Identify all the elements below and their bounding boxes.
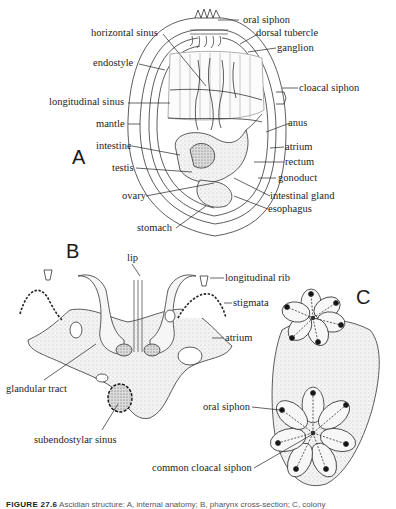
- panel-letter-b: B: [66, 240, 79, 263]
- label-oral-siphon: oral siphon: [243, 14, 290, 26]
- label-subendostylar-sinus: subendostylar sinus: [34, 434, 117, 446]
- label-horizontal-sinus: horizontal sinus: [91, 27, 158, 39]
- label-oral-siphon-c: oral siphon: [203, 401, 250, 413]
- figure-caption: FIGURE 27.6 Ascidian structure: A, inter…: [6, 500, 325, 509]
- label-dorsal-tubercle: dorsal tubercle: [256, 27, 318, 39]
- label-anus: anus: [288, 117, 307, 129]
- label-longitudinal-rib: longitudinal rib: [225, 272, 290, 284]
- panel-letter-a: A: [72, 146, 85, 169]
- label-cloacal-siphon: cloacal siphon: [299, 82, 359, 94]
- label-esophagus: esophagus: [268, 203, 312, 215]
- panel-letter-c: C: [356, 286, 370, 309]
- caption-text: Ascidian structure: A, internal anatomy;…: [59, 500, 325, 509]
- label-ovary: ovary: [122, 190, 146, 202]
- label-stigmata: stigmata: [233, 297, 269, 309]
- panel-a-drawing: [128, 9, 286, 236]
- label-longitudinal-sinus: longitudinal sinus: [49, 96, 124, 108]
- label-glandular-tract: glandular tract: [6, 383, 67, 395]
- label-ganglion: ganglion: [277, 42, 314, 54]
- panel-c-drawing: [268, 289, 380, 486]
- panel-b-drawing: [20, 270, 232, 419]
- label-mantle: mantle: [96, 118, 125, 130]
- label-intestinal-gland: intestinal gland: [270, 190, 334, 202]
- caption-number: FIGURE 27.6: [6, 500, 57, 509]
- label-intestine: intestine: [96, 140, 132, 152]
- label-endostyle: endostyle: [93, 57, 133, 69]
- label-atrium-a: atrium: [285, 141, 312, 153]
- label-gonoduct: gonoduct: [278, 172, 317, 184]
- label-atrium-b: atrium: [225, 332, 252, 344]
- label-stomach: stomach: [137, 222, 172, 234]
- label-testis: testis: [112, 162, 134, 174]
- label-lip: lip: [127, 252, 138, 264]
- label-common-cloacal-siphon: common cloacal siphon: [152, 462, 252, 474]
- label-rectum: rectum: [285, 156, 314, 168]
